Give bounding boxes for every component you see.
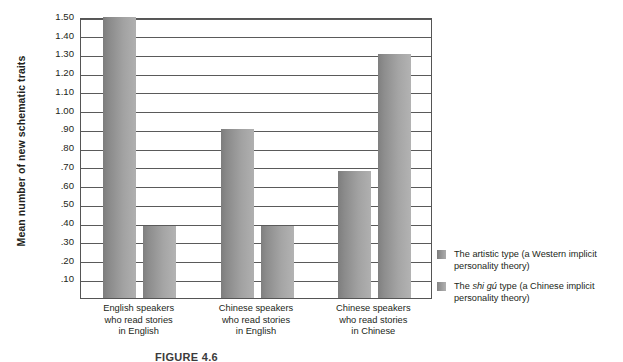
plot-area (80, 18, 432, 299)
legend-item-shigu: The shi gú type (a Chinese implicit pers… (437, 281, 623, 304)
bar (378, 54, 411, 298)
legend-label-shigu-line1-suffix: type (a Chinese implicit (497, 281, 595, 291)
legend-label-shigu-line1-prefix: The (454, 281, 472, 291)
y-axis-tick-label: .20 (0, 256, 74, 266)
y-axis-tick-label: 1.50 (0, 12, 74, 22)
x-axis-group-label-line: in English (80, 326, 197, 338)
x-axis-group-label-line: who read stories (197, 315, 314, 327)
x-axis-group-label: Chinese speakerswho read storiesin Chine… (315, 303, 432, 338)
y-axis-tick-label: 1.30 (0, 49, 74, 59)
bar (338, 171, 371, 298)
y-axis-tick-label: .60 (0, 181, 74, 191)
figure-bar-chart: Mean number of new schematic traits 1.50… (0, 0, 623, 362)
legend-item-artistic: The artistic type (a Western implicit pe… (437, 249, 623, 272)
figure-caption: FIGURE 4.6 (155, 351, 218, 362)
y-axis-tick-label: .50 (0, 199, 74, 209)
legend-label-artistic-line1: The artistic type (a Western implicit (454, 249, 597, 259)
legend-label-shigu: The shi gú type (a Chinese implicit pers… (454, 281, 594, 303)
x-axis-group-label: Chinese speakerswho read storiesin Engli… (197, 303, 314, 338)
x-axis-group-label-line: English speakers (80, 303, 197, 315)
x-axis-group-label: English speakerswho read storiesin Engli… (80, 303, 197, 338)
x-axis-group-label-line: who read stories (315, 315, 432, 327)
legend-label-artistic: The artistic type (a Western implicit pe… (454, 249, 597, 271)
legend-label-shigu-italic-term: shi gú (472, 281, 497, 291)
y-axis-tick-label: .90 (0, 124, 74, 134)
bar (103, 17, 136, 298)
x-axis-group-labels: English speakerswho read storiesin Engli… (80, 303, 432, 349)
y-axis-tick-label: 1.20 (0, 68, 74, 78)
x-axis-group-label-line: Chinese speakers (197, 303, 314, 315)
y-axis-tick-label: 1.10 (0, 87, 74, 97)
y-axis-tick-labels: 1.501.401.301.201.101.00.90.80.70.60.50.… (0, 0, 78, 362)
y-axis-tick-label: .40 (0, 218, 74, 228)
x-axis-group-label-line: in English (197, 326, 314, 338)
x-axis-group-label-line: in Chinese (315, 326, 432, 338)
y-axis-tick-label: 1.40 (0, 31, 74, 41)
legend-swatch-icon-artistic (437, 250, 446, 259)
legend-label-shigu-line2: personality theory) (454, 293, 530, 303)
x-axis-group-label-line: who read stories (80, 315, 197, 327)
bar (143, 226, 176, 298)
y-axis-tick-label: .10 (0, 274, 74, 284)
chart-legend: The artistic type (a Western implicit pe… (437, 249, 623, 313)
y-axis-tick-label: .70 (0, 162, 74, 172)
bar (261, 226, 294, 298)
legend-swatch-icon-shigu (437, 282, 446, 291)
x-axis-group-label-line: Chinese speakers (315, 303, 432, 315)
bar (221, 129, 254, 298)
y-axis-tick-label: 1.00 (0, 106, 74, 116)
y-axis-tick-label: .80 (0, 143, 74, 153)
y-axis-tick-label: .30 (0, 237, 74, 247)
legend-label-artistic-line2: personality theory) (454, 261, 530, 271)
